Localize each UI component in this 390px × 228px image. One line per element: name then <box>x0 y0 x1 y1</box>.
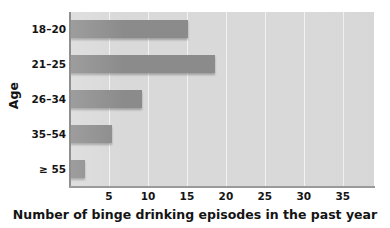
bar <box>70 160 85 178</box>
y-tick-label: 35–54 <box>22 128 66 140</box>
bar <box>70 90 142 108</box>
bar-chart: Age 18–2021–2526–3435–54≥ 55 51015202530… <box>0 0 390 228</box>
y-tick-label: ≥ 55 <box>22 163 66 175</box>
bar <box>70 125 112 143</box>
gridline <box>304 12 306 186</box>
x-tick-label: 35 <box>336 190 351 202</box>
x-tick-label: 30 <box>297 190 312 202</box>
x-tick-label: 15 <box>180 190 195 202</box>
x-axis-line <box>69 186 375 188</box>
x-axis-tick-labels: 5101520253035 <box>70 190 374 206</box>
x-tick-label: 20 <box>219 190 234 202</box>
gridline <box>265 12 267 186</box>
y-tick-label: 21–25 <box>22 58 66 70</box>
y-axis-line <box>69 12 71 187</box>
x-axis-title: Number of binge drinking episodes in the… <box>0 207 390 222</box>
y-tick-label: 26–34 <box>22 93 66 105</box>
x-tick-label: 5 <box>105 190 112 202</box>
y-axis-tick-labels: 18–2021–2526–3435–54≥ 55 <box>20 0 66 228</box>
y-tick-label: 18–20 <box>22 23 66 35</box>
gridline <box>343 12 345 186</box>
x-tick-label: 10 <box>141 190 156 202</box>
bar <box>70 20 188 38</box>
gridline <box>226 12 228 186</box>
x-tick-label: 25 <box>258 190 273 202</box>
plot-area <box>70 12 374 186</box>
bar <box>70 55 215 73</box>
